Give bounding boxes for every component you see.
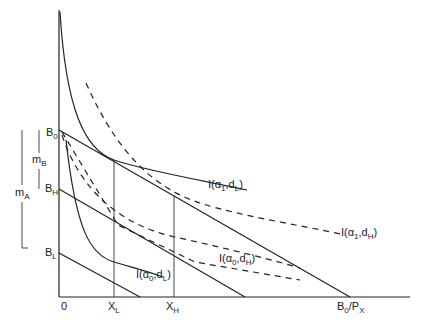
label-curve-a1dH: I(α1,dH) <box>341 226 377 241</box>
label-B0-PX: B0/PX <box>337 300 365 315</box>
label-curve-a1dL: I(α1,dL) <box>208 178 243 193</box>
label-XH: XH <box>166 300 179 315</box>
label-curve-a0dL: I(α0,dL) <box>136 268 171 283</box>
budget-line-BL <box>59 253 140 297</box>
label-XL: XL <box>108 300 120 315</box>
label-mA: mA <box>15 186 30 201</box>
label-B0: B0 <box>46 126 58 141</box>
diagram-canvas: B0 BH BL mB mA 0 XL XH B0/PX I(α1,dL) I(… <box>0 0 423 325</box>
label-origin: 0 <box>61 300 67 312</box>
label-BL: BL <box>45 246 57 261</box>
label-mB: mB <box>32 153 47 168</box>
label-BH: BH <box>45 182 58 197</box>
curve-a1dL <box>60 12 247 190</box>
budget-line-B0 <box>59 130 350 297</box>
steep-budget-dashed <box>62 132 300 280</box>
curve-a1dH <box>86 83 345 235</box>
